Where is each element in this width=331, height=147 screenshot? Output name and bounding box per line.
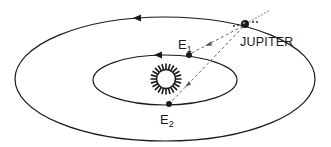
sun-icon (151, 64, 181, 94)
e1-label-main: E (178, 37, 187, 52)
e1-label-sub: 1 (187, 44, 192, 54)
earth-position-e2 (166, 101, 172, 107)
outer-orbit-arrow-icon (133, 15, 141, 22)
e1-label: E1 (178, 38, 192, 56)
e2-label-main: E (160, 112, 169, 127)
jupiter-label: JUPITER (240, 36, 294, 49)
e2-label: E2 (160, 113, 174, 131)
inner-orbit-arrow-icon (154, 52, 162, 59)
e2-label-sub: 2 (169, 119, 174, 129)
jupiter-highlight (243, 22, 246, 25)
jupiter-planet (241, 20, 249, 28)
jupiter-tail (246, 10, 270, 24)
path-arrow-e1-icon (205, 42, 212, 47)
path-arrow-e2-icon (185, 81, 191, 87)
